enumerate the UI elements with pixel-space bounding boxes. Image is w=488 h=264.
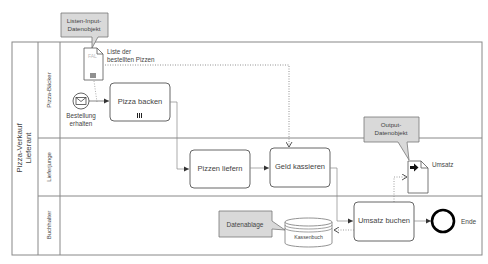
task-pizzen-liefern[interactable]: Pizzen liefern (190, 150, 250, 188)
task-umsatz-buchen[interactable]: Umsatz buchen (354, 202, 414, 241)
task-pizza-backen[interactable]: Pizza backen (110, 83, 170, 121)
multi-instance-marker-icon (137, 113, 142, 118)
data-object-output-icon[interactable] (408, 161, 428, 193)
start-event-message[interactable] (73, 93, 89, 109)
task-geld-kassieren[interactable]: Geld kassieren (270, 148, 330, 187)
lane-label-buchhalter: Buchhalter (46, 211, 52, 240)
svg-text:FAL: FAL (88, 53, 97, 59)
svg-text:Datenobjekt: Datenobjekt (67, 25, 100, 32)
start-event-label-line1: Bestellung (66, 112, 96, 120)
svg-text:Listen-Input-: Listen-Input- (67, 17, 101, 24)
lane-label-lieferjunge: Lieferjunge (46, 151, 52, 181)
data-object-list-icon[interactable]: FAL (84, 48, 103, 80)
lane-label-pizza-baecker: Pizza-Bäcker (46, 72, 52, 107)
pool-label-line2: Lieferant (24, 132, 33, 164)
data-object-output-label: Umsatz (432, 161, 453, 168)
svg-text:Datenablage: Datenablage (227, 221, 264, 229)
data-object-list-label-line1: Liste der (107, 48, 131, 55)
data-object-list-label-line2: bestellten Pizzen (107, 56, 155, 63)
svg-text:Kassenbuch: Kassenbuch (294, 234, 323, 240)
svg-text:Datenobjekt: Datenobjekt (374, 129, 407, 136)
svg-text:Pizzen liefern: Pizzen liefern (197, 164, 242, 173)
svg-text:Umsatz buchen: Umsatz buchen (358, 216, 410, 225)
svg-text:Geld kassieren: Geld kassieren (275, 162, 325, 171)
svg-text:Output-: Output- (381, 121, 402, 128)
pool-label-line1: Pizza-Verkauf (15, 123, 24, 173)
bpmn-diagram: Pizza-Verkauf Lieferant Pizza-Bäcker Lie… (0, 0, 488, 264)
end-event-label: Ende (461, 218, 477, 225)
end-event[interactable] (432, 210, 454, 232)
data-store-kassenbuch-icon[interactable]: Kassenbuch (285, 218, 332, 247)
svg-text:Pizza backen: Pizza backen (118, 97, 163, 106)
start-event-label-line2: erhalten (70, 120, 93, 127)
